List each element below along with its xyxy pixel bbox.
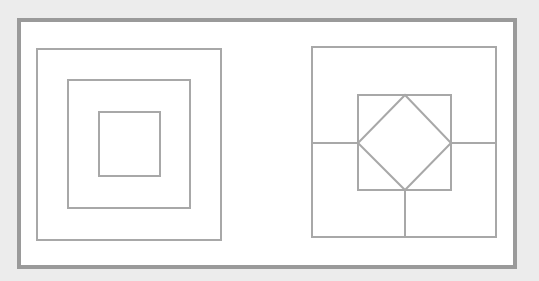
outer-frame xyxy=(19,20,515,267)
diagram-canvas xyxy=(0,0,539,281)
